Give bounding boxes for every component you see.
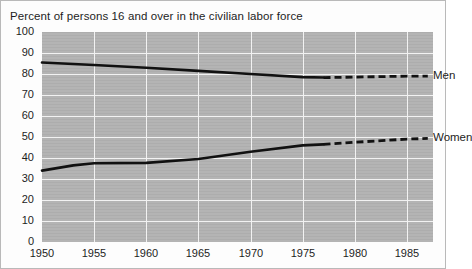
series-label-men: Men — [433, 69, 455, 81]
series-line-men-solid — [42, 62, 324, 77]
y-tick-label: 30 — [6, 173, 34, 184]
series-layer — [42, 32, 433, 242]
y-tick-label: 10 — [6, 215, 34, 226]
y-tick-label: 20 — [6, 194, 34, 205]
x-tick-label: 1960 — [126, 248, 166, 259]
x-tick-label: 1955 — [74, 248, 114, 259]
y-tick-label: 80 — [6, 68, 34, 79]
x-tick-label: 1970 — [231, 248, 271, 259]
series-label-women: Women — [433, 131, 472, 143]
x-tick-label: 1950 — [22, 248, 62, 259]
series-line-men-projected — [324, 76, 428, 77]
x-tick-label: 1985 — [387, 248, 427, 259]
series-line-women-projected — [324, 138, 428, 144]
x-tick-label: 1975 — [283, 248, 323, 259]
y-tick-label: 60 — [6, 110, 34, 121]
y-tick-label: 100 — [6, 26, 34, 37]
plot-wrapper: 0102030405060708090100 19501955196019651… — [1, 1, 447, 269]
x-tick-label: 1980 — [335, 248, 375, 259]
y-tick-label: 70 — [6, 89, 34, 100]
y-tick-label: 0 — [6, 236, 34, 247]
series-line-women-solid — [42, 144, 324, 170]
y-tick-label: 90 — [6, 47, 34, 58]
y-tick-label: 40 — [6, 152, 34, 163]
y-tick-label: 50 — [6, 131, 34, 142]
x-tick-label: 1965 — [178, 248, 218, 259]
